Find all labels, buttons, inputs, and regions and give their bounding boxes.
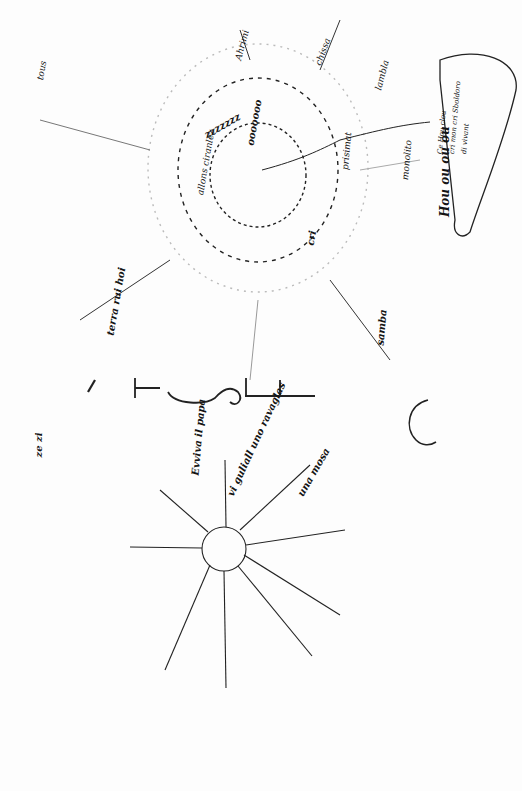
manuscript-page: allons ciranlez Ahrimi chissa lambla pri… xyxy=(0,0,522,791)
side-label: Hou ou ou ou xyxy=(438,126,452,217)
margin-note: ze zi xyxy=(33,433,44,458)
